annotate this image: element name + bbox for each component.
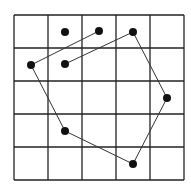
grid-lines	[14, 15, 184, 180]
dot-point	[163, 94, 171, 102]
dot-point	[61, 127, 69, 135]
grid-diagram	[0, 0, 191, 186]
dot-point	[129, 28, 137, 36]
dot-point	[61, 28, 69, 36]
polyline-path	[31, 31, 167, 164]
connecting-path	[31, 31, 167, 164]
dot-point	[27, 61, 35, 69]
dot-point	[61, 60, 69, 68]
dot-point	[95, 27, 103, 35]
dot-point	[129, 160, 137, 168]
